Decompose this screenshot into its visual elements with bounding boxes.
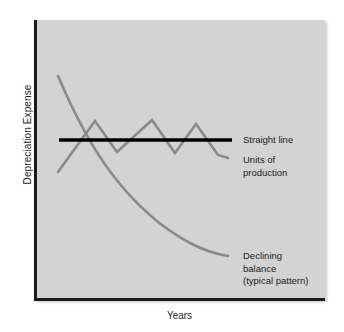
declining-balance-curve [58, 76, 228, 256]
annotation-straight-line: Straight line [243, 134, 293, 147]
annotation-declining-balance: Declining balance (typical pattern) [243, 250, 308, 288]
depreciation-methods-chart: Depreciation Expense Years Straight line… [0, 0, 344, 332]
annotation-units-of-production: Units of production [243, 154, 287, 179]
